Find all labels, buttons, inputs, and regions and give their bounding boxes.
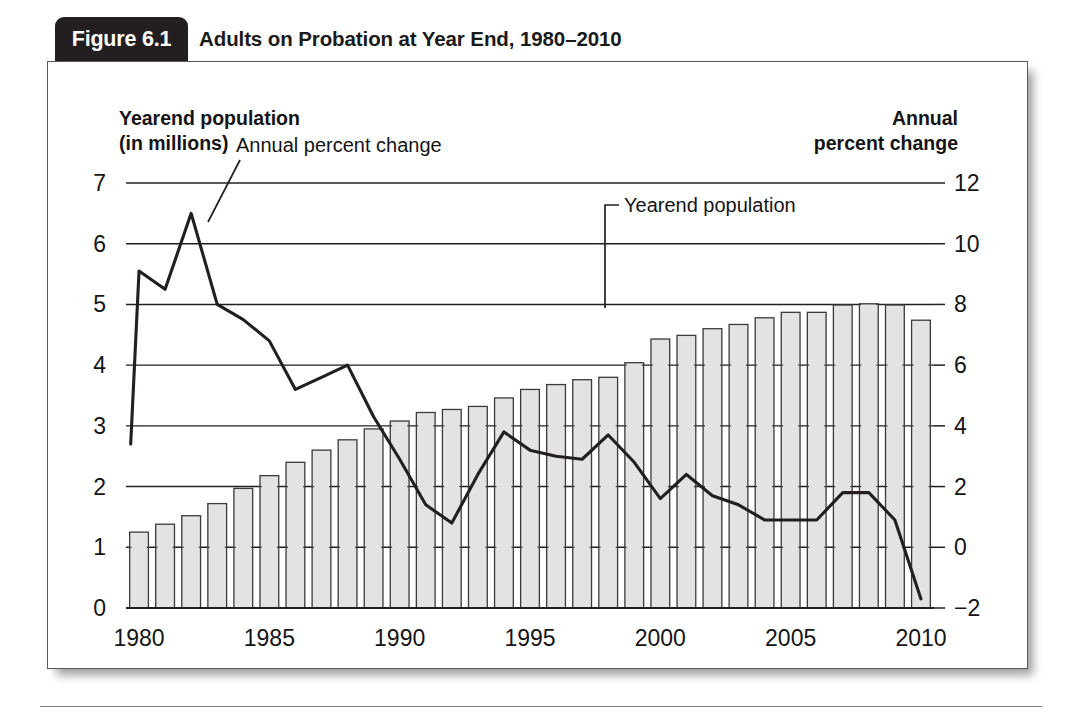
bar xyxy=(599,377,618,608)
figure-number-tab: Figure 6.1 xyxy=(55,17,188,61)
annotation-label-percent-change: Annual percent change xyxy=(236,134,442,156)
bar xyxy=(234,488,253,608)
bar-series xyxy=(130,304,931,608)
probation-chart: Yearend population (in millions) Annual … xyxy=(48,62,1029,670)
bar xyxy=(260,476,279,608)
x-tick-label: 1985 xyxy=(244,625,295,651)
bar xyxy=(781,312,800,608)
bar xyxy=(495,398,514,608)
bar xyxy=(755,318,774,608)
right-axis-ticks: −2024681012 xyxy=(934,170,980,621)
left-tick-label: 0 xyxy=(93,595,106,621)
left-axis-heading-line1: Yearend population xyxy=(119,107,300,129)
bar xyxy=(729,324,748,608)
bar xyxy=(677,335,696,608)
bar xyxy=(625,363,644,608)
chart-annotations: Annual percent changeYearend population xyxy=(208,134,796,308)
bar xyxy=(364,429,383,608)
left-tick-label: 4 xyxy=(93,352,106,378)
bar xyxy=(521,389,540,608)
right-tick-label: 12 xyxy=(954,170,980,196)
right-axis-heading-line1: Annual xyxy=(892,107,958,129)
bar xyxy=(130,532,149,608)
annotation-leader-percent-change xyxy=(208,160,240,222)
bar xyxy=(312,450,331,608)
left-tick-label: 2 xyxy=(93,474,106,500)
left-tick-label: 5 xyxy=(93,291,106,317)
x-axis-ticks: 1980198519901995200020052010 xyxy=(113,608,946,651)
right-tick-label: 6 xyxy=(954,352,967,378)
bar xyxy=(703,329,722,608)
bar xyxy=(182,516,201,608)
bar xyxy=(547,385,566,608)
bar xyxy=(468,406,487,608)
bar xyxy=(833,305,852,608)
x-tick-label: 1990 xyxy=(374,625,425,651)
bar xyxy=(886,305,905,608)
left-axis-ticks: 01234567 xyxy=(93,170,106,621)
bar xyxy=(338,440,357,608)
right-tick-label: 4 xyxy=(954,413,967,439)
bar xyxy=(651,339,670,608)
left-axis-heading-line2: (in millions) xyxy=(119,132,228,154)
bar xyxy=(286,462,305,608)
right-tick-label: −2 xyxy=(954,595,980,621)
left-tick-label: 6 xyxy=(93,231,106,257)
left-tick-label: 3 xyxy=(93,413,106,439)
x-tick-label: 2005 xyxy=(765,625,816,651)
right-tick-label: 8 xyxy=(954,291,967,317)
bar xyxy=(573,380,592,608)
bar xyxy=(208,504,227,608)
bar xyxy=(859,304,878,608)
x-tick-label: 1995 xyxy=(504,625,555,651)
right-tick-label: 2 xyxy=(954,474,967,500)
figure-title: Adults on Probation at Year End, 1980–20… xyxy=(199,27,622,51)
right-axis-heading-line2: percent change xyxy=(814,132,958,154)
annotation-leader-yearend-population xyxy=(605,205,619,308)
figure-container: Figure 6.1 Adults on Probation at Year E… xyxy=(0,0,1082,723)
left-tick-label: 7 xyxy=(93,170,106,196)
x-tick-label: 2000 xyxy=(635,625,686,651)
x-tick-label: 1980 xyxy=(113,625,164,651)
footer-rule xyxy=(40,706,1042,707)
chart-frame: Yearend population (in millions) Annual … xyxy=(47,61,1028,669)
bar xyxy=(912,320,931,608)
bar xyxy=(807,312,826,608)
annotation-label-yearend-population: Yearend population xyxy=(624,194,796,216)
left-tick-label: 1 xyxy=(93,534,106,560)
bar xyxy=(156,524,175,608)
figure-number-label: Figure 6.1 xyxy=(72,27,172,52)
x-tick-label: 2010 xyxy=(895,625,946,651)
right-tick-label: 0 xyxy=(954,534,967,560)
right-tick-label: 10 xyxy=(954,231,980,257)
